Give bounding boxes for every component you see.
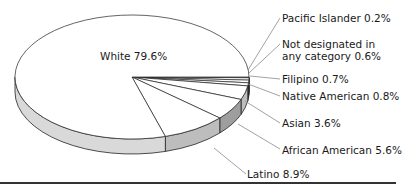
- label-latino: Latino 8.9%: [247, 168, 309, 180]
- label-filipino: Filipino 0.7%: [282, 73, 349, 85]
- bottom-rule: [0, 182, 396, 184]
- leader-line: [249, 44, 280, 73]
- label-asian: Asian 3.6%: [282, 117, 341, 129]
- leader-line: [245, 101, 280, 123]
- leader-line: [214, 148, 246, 174]
- label-not-designated: Not designated in any category 0.6%: [282, 38, 392, 62]
- leader-line: [248, 84, 280, 96]
- label-pacific-islander: Pacific Islander 0.2%: [282, 12, 391, 24]
- label-african-american: African American 5.6%: [282, 144, 402, 156]
- label-native-american: Native American 0.8%: [282, 90, 399, 102]
- leader-line: [238, 124, 280, 149]
- leader-line: [248, 18, 280, 70]
- label-white: White 79.6%: [100, 50, 167, 62]
- leader-line: [250, 76, 280, 79]
